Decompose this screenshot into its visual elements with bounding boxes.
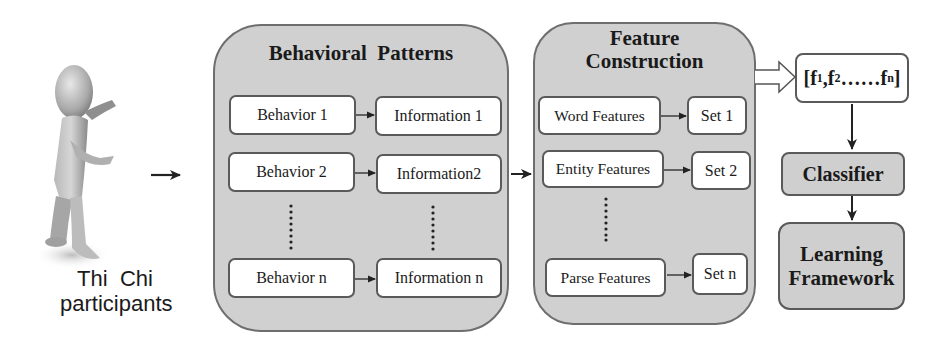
vertical-dots-information [431,205,434,250]
vertical-dots-features [604,197,607,241]
vertical-dots-behavior [289,204,292,249]
connector-arrows [0,0,948,355]
block-arrow-to-vector [755,62,795,92]
pipeline-diagram: Thi Chi participants Behavioral Patterns… [0,0,948,355]
